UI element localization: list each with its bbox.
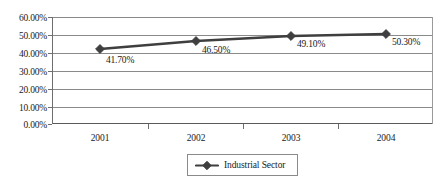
legend-item-industrial-sector[interactable]: Industrial Sector	[188, 160, 285, 171]
x-axis-label-2004: 2004	[338, 133, 434, 143]
x-axis-tick-1	[148, 124, 149, 129]
x-axis-label-2001: 2001	[52, 133, 148, 143]
y-axis-label-60: 60.00%	[0, 13, 47, 23]
x-axis-label-2003: 2003	[243, 133, 339, 143]
x-axis-tick-2	[243, 124, 244, 129]
data-label-2004: 50.30%	[392, 37, 420, 47]
plot-area	[52, 17, 433, 124]
y-axis-label-30: 30.00%	[0, 67, 47, 77]
y-axis-label-40: 40.00%	[0, 49, 47, 59]
gridline-60	[53, 17, 432, 18]
gridline-30	[53, 71, 432, 72]
y-axis-tick-0	[48, 124, 52, 125]
y-axis-label-0: 0.00%	[0, 120, 47, 130]
data-label-2001: 41.70%	[106, 55, 134, 65]
gridline-50	[53, 35, 432, 36]
y-axis-label-50: 50.00%	[0, 31, 47, 41]
x-axis-label-2002: 2002	[148, 133, 244, 143]
x-axis-tick-3	[338, 124, 339, 129]
y-axis-label-20: 20.00%	[0, 85, 47, 95]
y-axis-label-10: 10.00%	[0, 103, 47, 113]
line-chart: 60.00% 50.00% 40.00% 30.00% 20.00% 10.00…	[0, 0, 444, 185]
legend-label: Industrial Sector	[224, 160, 285, 170]
gridline-10	[53, 107, 432, 108]
gridline-40	[53, 53, 432, 54]
legend: Industrial Sector	[187, 154, 298, 176]
data-label-2003: 49.10%	[297, 39, 325, 49]
legend-line-marker-icon	[195, 160, 219, 171]
data-label-2002: 46.50%	[202, 45, 230, 55]
gridline-20	[53, 89, 432, 90]
